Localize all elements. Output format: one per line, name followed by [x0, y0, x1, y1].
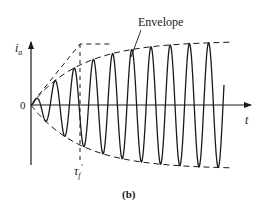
envelope-diagram: Envelope ia 0 t τf′ (b)	[0, 0, 261, 207]
x-axis-label: t	[245, 113, 249, 127]
envelope-label: Envelope	[138, 15, 183, 29]
figure-caption: (b)	[122, 188, 136, 201]
envelope-leader-line	[131, 30, 141, 57]
time-constant-label: τf′	[74, 162, 84, 180]
origin-label: 0	[20, 99, 26, 111]
y-axis-label: ia	[15, 41, 22, 57]
